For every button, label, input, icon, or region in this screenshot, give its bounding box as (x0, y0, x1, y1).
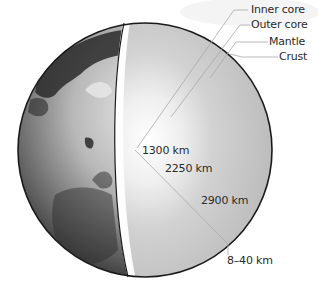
depth-2900km: 2900 km (201, 195, 248, 207)
label-crust: Crust (279, 51, 307, 63)
depth-2250km: 2250 km (165, 163, 212, 175)
label-mantle: Mantle (269, 36, 305, 48)
label-outer-core: Outer core (251, 19, 308, 31)
depth-1300km: 1300 km (142, 145, 189, 157)
depth-crust-thickness: 8–40 km (227, 255, 273, 267)
label-inner-core: Inner core (251, 4, 305, 16)
